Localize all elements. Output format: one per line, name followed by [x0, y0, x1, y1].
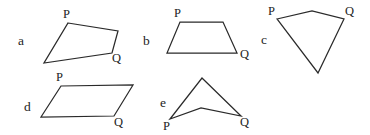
shape-group-c: c P Q — [261, 4, 354, 73]
shape-d-vertex-p: P — [56, 70, 63, 84]
shape-group-b: b P Q — [143, 6, 249, 61]
shape-d-item-label: d — [24, 99, 31, 114]
quadrilaterals-diagram: a P Q b P Q c P Q d P Q e P — [0, 0, 370, 135]
figure-canvas: a P Q b P Q c P Q d P Q e P — [0, 0, 370, 135]
shape-a-item-label: a — [18, 33, 24, 48]
shape-c-vertex-p: P — [268, 4, 275, 18]
shape-group-e: e P Q — [160, 78, 249, 133]
shape-b-vertex-p: P — [174, 6, 181, 20]
shape-e-item-label: e — [160, 95, 166, 110]
shape-c-item-label: c — [261, 32, 267, 47]
shape-e-vertex-p: P — [163, 119, 170, 133]
shape-d-outline — [41, 85, 133, 117]
shape-e-vertex-q: Q — [240, 115, 249, 129]
shape-d-vertex-q: Q — [114, 115, 123, 129]
shape-group-d: d P Q — [24, 70, 133, 129]
shape-b-item-label: b — [143, 33, 150, 48]
shape-c-vertex-q: Q — [345, 4, 354, 18]
shape-e-outline — [170, 78, 241, 119]
shape-b-vertex-q: Q — [240, 47, 249, 61]
shape-a-outline — [44, 23, 118, 63]
shape-a-vertex-q: Q — [112, 51, 121, 65]
shape-group-a: a P Q — [18, 7, 121, 65]
shape-a-vertex-p: P — [63, 7, 70, 21]
shape-c-outline — [277, 11, 344, 73]
shape-b-outline — [167, 22, 237, 53]
